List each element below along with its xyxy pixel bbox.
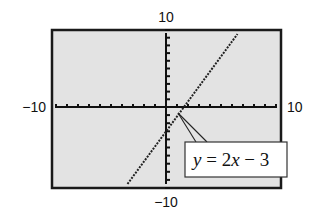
- xmin-label: −10: [22, 99, 46, 115]
- xmax-label: 10: [287, 99, 303, 115]
- eq-y: y: [191, 149, 202, 170]
- svg-text:y = 2x − 3: y = 2x − 3: [191, 149, 269, 170]
- graphing-calculator-screen: y = 2x − 3 10 −10 −10 10: [0, 0, 323, 215]
- ymax-label: 10: [158, 9, 174, 25]
- eq-mid: = 2: [201, 149, 231, 170]
- equation-label: y = 2x − 3: [185, 142, 287, 177]
- eq-rest: − 3: [240, 149, 270, 170]
- ymin-label: −10: [154, 194, 178, 210]
